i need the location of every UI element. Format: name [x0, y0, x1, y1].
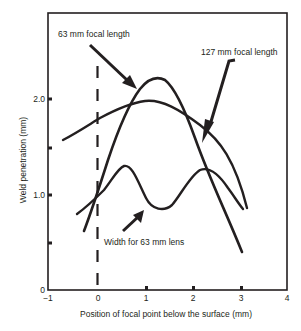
y-tick-label-1: 1.0 — [33, 190, 45, 200]
annotation-127mm-label: 127 mm focal length — [201, 47, 278, 57]
curve-127mm — [63, 101, 247, 208]
annotation-width-arrow — [123, 210, 144, 231]
x-tick-label-2: 2 — [191, 293, 196, 303]
annotation-63mm-label: 63 mm focal length — [58, 29, 130, 39]
annotation-width-label: Width for 63 mm lens — [104, 237, 184, 247]
x-axis-title: Position of focal point below the surfac… — [80, 309, 252, 319]
weld-penetration-chart: 2.0 1.0 0 −1 0 1 2 3 4 Position of focal… — [0, 0, 301, 331]
x-tick-label-m1: −1 — [43, 293, 53, 303]
x-tick-label-3: 3 — [239, 293, 244, 303]
annotation-127mm-arrow — [202, 60, 235, 143]
y-tick-label-2: 2.0 — [33, 94, 45, 104]
curve-width-63mm — [77, 166, 243, 214]
x-tick-label-0: 0 — [96, 293, 101, 303]
x-tick-label-4: 4 — [285, 293, 290, 303]
x-tick-label-1: 1 — [144, 293, 149, 303]
y-axis-title: Weld penetration (mm) — [18, 117, 28, 203]
